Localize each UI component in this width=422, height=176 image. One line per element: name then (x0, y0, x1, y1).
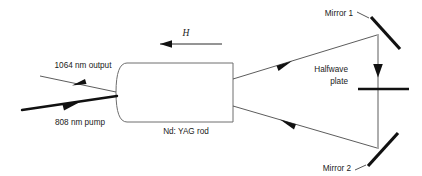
diagram-canvas: H Nd: YAG rod 1064 nm output 808 nm pump (0, 0, 422, 176)
pump-beam-label: 808 nm pump (55, 118, 106, 127)
nd-yag-rod (116, 63, 233, 122)
mirror-1-label: Mirror 1 (325, 9, 354, 18)
nd-yag-rod-label: Nd: YAG rod (163, 127, 209, 136)
h-field-label: H (182, 28, 191, 38)
halfwave-plate-label-line1: Halfwave (314, 65, 348, 74)
nd-yag-rod-body (116, 63, 233, 122)
halfwave-plate-label-line2: plate (330, 77, 348, 86)
mirror-2-label: Mirror 2 (323, 164, 352, 173)
laser-cavity-diagram: H Nd: YAG rod 1064 nm output 808 nm pump (0, 0, 422, 176)
output-beam-label: 1064 nm output (55, 61, 113, 70)
